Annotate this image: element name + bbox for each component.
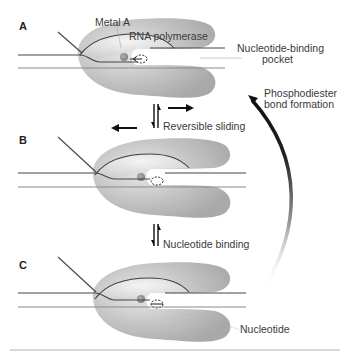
metal-a-ion bbox=[120, 53, 128, 61]
empty-nucleotide-site bbox=[151, 177, 163, 185]
rna-exit bbox=[58, 32, 82, 53]
nucleotide-binding-transition: Nucleotide binding bbox=[151, 224, 250, 250]
phosphodiester-label-2: bond formation bbox=[264, 98, 334, 110]
rna-polymerase-body bbox=[93, 138, 231, 218]
panel-a-letter: A bbox=[19, 20, 27, 32]
reversible-sliding-label: Reversible sliding bbox=[163, 120, 245, 132]
nucleotide-label: Nucleotide bbox=[240, 323, 290, 335]
panel-c: C Nucleotide bbox=[18, 257, 290, 342]
rna-polymerase-label: RNA polymerase bbox=[129, 30, 208, 42]
phosphodiester-transition: Phosphodiester bond formation bbox=[248, 87, 337, 290]
panel-c-letter: C bbox=[19, 259, 27, 271]
transcription-cycle-diagram: A Metal A RNA polymerase Nucleotide-bind… bbox=[0, 0, 349, 353]
metal-a-label: Metal A bbox=[95, 16, 130, 28]
rna-exit bbox=[58, 137, 96, 172]
nucleotide-binding-label: Nucleotide binding bbox=[163, 238, 250, 250]
metal-a-ion bbox=[137, 295, 145, 303]
cropped-caption bbox=[10, 349, 340, 351]
panel-b: B bbox=[18, 134, 246, 218]
panel-a: A Metal A RNA polymerase Nucleotide-bind… bbox=[18, 16, 324, 98]
rna-exit bbox=[58, 257, 96, 292]
reversible-sliding-transition: Reversible sliding bbox=[111, 104, 245, 132]
metal-a-ion bbox=[137, 173, 145, 181]
bond-formation-arrow bbox=[252, 100, 291, 290]
panel-b-letter: B bbox=[19, 134, 27, 146]
nucleotide-binding-pocket-label-2: pocket bbox=[262, 53, 293, 65]
